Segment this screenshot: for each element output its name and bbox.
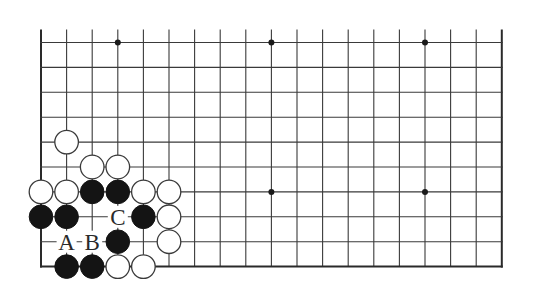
point-label-b: B [85, 230, 100, 255]
white-stone [55, 130, 79, 154]
white-stone [157, 230, 181, 254]
white-stone [106, 155, 130, 179]
stones-layer [29, 130, 181, 278]
board-grid [40, 30, 503, 268]
white-stone [157, 205, 181, 229]
white-stone [132, 255, 156, 279]
black-stone [132, 205, 156, 229]
point-label-c: C [110, 205, 125, 230]
star-point-icon [268, 189, 274, 195]
go-board-diagram: ABC [0, 0, 533, 302]
black-stone [80, 255, 104, 279]
black-stone [29, 205, 53, 229]
black-stone [106, 230, 130, 254]
star-point-icon [268, 40, 274, 46]
white-stone [106, 255, 130, 279]
point-label-a: A [58, 230, 75, 255]
white-stone [80, 155, 104, 179]
black-stone [55, 255, 79, 279]
black-stone [106, 180, 130, 204]
white-stone [157, 180, 181, 204]
star-point-icon [422, 40, 428, 46]
black-stone [80, 180, 104, 204]
black-stone [55, 205, 79, 229]
white-stone [29, 180, 53, 204]
star-point-icon [115, 40, 121, 46]
star-point-icon [422, 189, 428, 195]
white-stone [132, 180, 156, 204]
white-stone [55, 180, 79, 204]
